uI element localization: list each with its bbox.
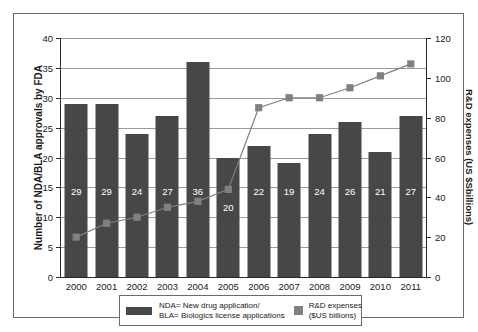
- x-tick-label: 2007: [279, 281, 300, 292]
- right-tick: [426, 237, 431, 238]
- right-tick: [426, 78, 431, 79]
- right-tick-label: 80: [435, 112, 446, 123]
- line-series: [61, 38, 426, 277]
- line-marker: [286, 94, 293, 101]
- legend-line-swatch: [294, 306, 303, 315]
- line-marker: [73, 234, 80, 241]
- left-tick-label: 40: [42, 33, 53, 44]
- x-tick-label: 2000: [66, 281, 87, 292]
- right-tick-label: 100: [435, 72, 451, 83]
- legend-bar-line2: BLA= Biologics license applications: [159, 311, 285, 321]
- right-tick-label: 40: [435, 192, 446, 203]
- left-tick-label: 30: [42, 92, 53, 103]
- right-tick: [426, 38, 431, 39]
- line-marker: [377, 72, 384, 79]
- right-tick: [426, 158, 431, 159]
- line-marker: [255, 104, 262, 111]
- left-tick-label: 20: [42, 152, 53, 163]
- line-marker: [316, 94, 323, 101]
- x-tick-label: 2002: [126, 281, 147, 292]
- legend-bar-text: NDA= New drug application/ BLA= Biologic…: [159, 301, 285, 321]
- x-tick-label: 2008: [309, 281, 330, 292]
- left-tick-label: 25: [42, 122, 53, 133]
- chart-frame: Number of NDA/BLA approvals by FDA R&D e…: [13, 13, 464, 318]
- left-tick-label: 5: [48, 242, 53, 253]
- right-tick: [426, 197, 431, 198]
- x-tick-label: 2003: [157, 281, 178, 292]
- line-marker: [407, 60, 414, 67]
- right-tick-label: 60: [435, 152, 446, 163]
- x-axis-line: [60, 277, 427, 278]
- right-tick-label: 20: [435, 232, 446, 243]
- legend-bar-swatch: [126, 307, 152, 315]
- x-tick-label: 2011: [401, 281, 421, 292]
- right-tick: [426, 118, 431, 119]
- x-tick-label: 2001: [96, 281, 117, 292]
- right-tick-label: 120: [435, 33, 451, 44]
- legend-line-text: R&D expenses ($US billions): [309, 301, 362, 321]
- x-tick-label: 2006: [248, 281, 269, 292]
- line-marker: [103, 220, 110, 227]
- left-tick-label: 35: [42, 62, 53, 73]
- line-marker: [164, 204, 171, 211]
- legend-line-line2: ($US billions): [309, 311, 362, 321]
- chart-figure: Number of NDA/BLA approvals by FDA R&D e…: [0, 0, 478, 332]
- line-marker: [346, 84, 353, 91]
- left-tick-label: 10: [42, 212, 53, 223]
- line-marker: [225, 186, 232, 193]
- legend-line-line1: R&D expenses: [309, 301, 362, 311]
- x-tick-label: 2010: [370, 281, 391, 292]
- right-tick: [426, 277, 431, 278]
- x-tick-label: 2009: [339, 281, 360, 292]
- line-marker: [133, 214, 140, 221]
- right-tick-label: 0: [435, 272, 440, 283]
- right-axis-title-text: R&D expenses (US $Sbillions): [464, 89, 475, 225]
- line-path: [76, 64, 411, 237]
- line-marker: [194, 198, 201, 205]
- chart-legend: NDA= New drug application/ BLA= Biologic…: [119, 295, 362, 326]
- left-tick-label: 0: [48, 272, 53, 283]
- line-markers: [73, 60, 415, 240]
- plot-area: 0510152025303540 020406080100120 2929242…: [61, 38, 426, 277]
- right-axis-title: R&D expenses (US $Sbillions): [462, 38, 476, 277]
- x-tick-label: 2005: [218, 281, 239, 292]
- left-tick: [56, 277, 61, 278]
- legend-bar-line1: NDA= New drug application/: [159, 301, 285, 311]
- x-tick-label: 2004: [187, 281, 208, 292]
- left-tick-label: 15: [42, 182, 53, 193]
